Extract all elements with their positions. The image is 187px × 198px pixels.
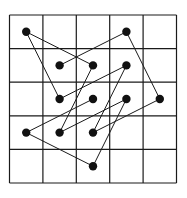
dot-marker	[122, 95, 130, 103]
dot-marker	[122, 28, 130, 36]
dot-marker	[55, 128, 63, 136]
dot-marker	[55, 95, 63, 103]
dot-marker	[22, 28, 30, 36]
dot-marker	[22, 128, 30, 136]
dot-marker	[89, 95, 97, 103]
dot-marker	[156, 95, 164, 103]
dot-marker	[55, 61, 63, 69]
dot-marker	[89, 128, 97, 136]
dot-marker	[89, 61, 97, 69]
dot-marker	[89, 162, 97, 170]
knight-path-grid-diagram	[0, 0, 187, 198]
dot-marker	[122, 61, 130, 69]
